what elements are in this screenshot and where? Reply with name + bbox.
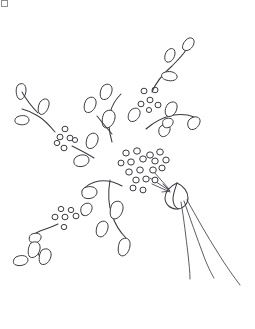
- seed-dot: [62, 126, 68, 132]
- seed-dot: [150, 167, 157, 173]
- leaf-shape: [82, 187, 97, 199]
- seed-dot: [163, 157, 169, 163]
- seed-dot: [137, 167, 144, 173]
- leaf-shape: [118, 238, 130, 256]
- seed-dot: [134, 148, 141, 154]
- branch-lower-center-group: [82, 180, 130, 256]
- seed-dot: [155, 102, 161, 108]
- crescent-bulb-group: [165, 183, 188, 209]
- leaf-shape: [84, 97, 96, 112]
- seed-dot: [157, 149, 164, 155]
- leaf-shape: [162, 72, 178, 81]
- seed-dot: [130, 185, 136, 191]
- leaf-shape: [163, 118, 174, 128]
- illustration-canvas: [0, 0, 255, 329]
- seed-dot: [159, 165, 165, 171]
- leaf-shape: [100, 84, 112, 99]
- stream-line-3: [187, 200, 240, 285]
- seed-dot: [128, 159, 135, 165]
- seed-dot: [152, 177, 158, 183]
- seed-dot: [61, 145, 67, 151]
- crescent-bulb-inner-curve: [173, 183, 178, 209]
- leaf-shape: [74, 155, 89, 167]
- seed-dot: [73, 213, 79, 219]
- leaf-shape: [128, 108, 140, 121]
- trailing-streams-group: [181, 200, 240, 285]
- seed-dot: [54, 140, 60, 145]
- branch-upper-right-group: [128, 38, 194, 122]
- seed-dot: [68, 207, 74, 212]
- seed-dot: [146, 108, 151, 113]
- seed-dot: [138, 101, 144, 107]
- seed-dot: [52, 214, 58, 220]
- leaf-shape: [86, 133, 98, 148]
- seed-dot: [141, 88, 147, 94]
- leaf-shape: [38, 99, 49, 115]
- upper-right-cluster-group: [138, 87, 161, 112]
- branch-right-mid-group: [146, 102, 200, 137]
- seed-dot: [118, 160, 124, 166]
- leaf-shape: [81, 203, 92, 215]
- center-cluster-group: [118, 148, 169, 193]
- seed-dot: [140, 156, 147, 162]
- leaf-shape: [188, 117, 200, 130]
- branch-upper-center-group: [84, 84, 121, 142]
- leaf-shape: [39, 249, 51, 265]
- seed-dot: [126, 169, 133, 175]
- seed-dot: [58, 206, 64, 211]
- crescent-bulb-outer: [165, 183, 188, 209]
- seed-dot: [147, 152, 154, 158]
- seed-dot: [133, 177, 139, 183]
- seed-dot: [62, 214, 68, 220]
- leaf-shape: [15, 116, 29, 125]
- leaf-shape: [110, 201, 123, 219]
- dandelion-line-art: [0, 0, 255, 329]
- branch-left-group: [15, 84, 55, 132]
- leaf-shape: [183, 38, 195, 51]
- leaf-shape: [96, 221, 108, 237]
- seed-dot: [152, 158, 158, 164]
- seed-dot: [57, 134, 63, 140]
- leaf-shape: [13, 256, 28, 266]
- branch-lower-left-group: [13, 203, 92, 265]
- seed-dot: [140, 187, 146, 193]
- seed-dot: [123, 150, 129, 156]
- seed-dot: [72, 138, 77, 143]
- leaf-shape: [165, 49, 175, 63]
- seed-dot: [61, 224, 67, 229]
- seed-dot: [147, 97, 153, 103]
- seed-dot: [143, 176, 149, 182]
